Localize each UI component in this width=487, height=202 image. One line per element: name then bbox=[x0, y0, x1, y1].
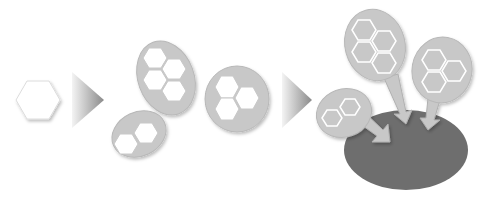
arrow-right-icon bbox=[282, 72, 312, 128]
process-diagram bbox=[0, 0, 487, 202]
binding-cluster-left bbox=[309, 81, 390, 145]
cluster-oval-medium bbox=[205, 66, 269, 132]
cluster-oval-large bbox=[127, 33, 206, 124]
single-hexagon-icon bbox=[16, 81, 60, 119]
arrow-right-icon bbox=[72, 72, 104, 128]
